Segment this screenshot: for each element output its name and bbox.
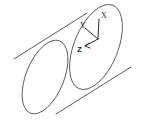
near-ellipse <box>59 0 134 97</box>
y-axis-line <box>85 28 98 39</box>
figure-canvas: X Y Z <box>0 0 141 124</box>
z-axis-label: Z <box>77 45 82 54</box>
ruling-bottom-line <box>56 67 131 114</box>
far-ellipse <box>13 34 77 121</box>
x-axis-line <box>98 19 99 39</box>
x-axis-label: X <box>101 11 107 20</box>
coordinate-triad: X Y Z <box>77 11 107 54</box>
y-axis-label: Y <box>80 21 86 30</box>
cylinder-coordinate-diagram: X Y Z <box>0 0 141 124</box>
